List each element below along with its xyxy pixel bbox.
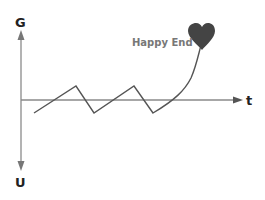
x-axis-right-arrow-icon (233, 97, 243, 104)
y-axis-bottom-label: U (15, 175, 26, 190)
y-axis-up-arrow-icon (18, 30, 25, 40)
diagram: G U t Happy End (0, 0, 265, 200)
y-axis-top-label: G (15, 15, 26, 30)
diagram-canvas: G U t Happy End (0, 0, 265, 200)
story-line (34, 40, 203, 113)
y-axis-down-arrow-icon (18, 161, 25, 171)
x-axis-label: t (246, 93, 252, 108)
happy-end-annotation: Happy End (132, 37, 193, 48)
